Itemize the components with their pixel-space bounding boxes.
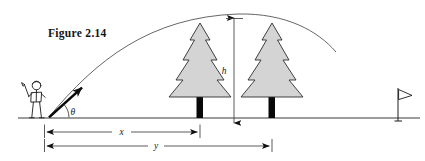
dimension-height-h: h	[222, 18, 243, 123]
projectile-motion-figure: h	[0, 0, 425, 161]
golfer-leg-right	[40, 102, 42, 117]
distance-x-label: x	[118, 127, 124, 137]
golfer	[22, 81, 46, 118]
figure-container: h	[0, 0, 425, 161]
dimension-distance-x: x	[45, 125, 201, 139]
golfer-leg-left	[32, 102, 34, 117]
tree-far	[241, 23, 303, 118]
dimension-distance-y: y	[45, 139, 273, 152]
golf-club-shaft	[24, 84, 28, 96]
figure-caption: Figure 2.14	[48, 27, 107, 40]
velocity-vector-arrow	[49, 88, 82, 118]
launch-velocity: θ	[49, 88, 82, 118]
tree-near-foliage	[169, 23, 231, 97]
angle-arc	[64, 104, 69, 117]
angle-label: θ	[71, 107, 76, 117]
distance-y-label: y	[153, 141, 159, 151]
tree-near-trunk	[197, 95, 204, 118]
golf-flag	[395, 88, 413, 121]
golf-club-head	[22, 83, 25, 86]
height-label: h	[222, 66, 227, 76]
tree-far-trunk	[269, 95, 276, 118]
flag-banner	[399, 90, 412, 100]
tree-far-foliage	[241, 23, 303, 97]
